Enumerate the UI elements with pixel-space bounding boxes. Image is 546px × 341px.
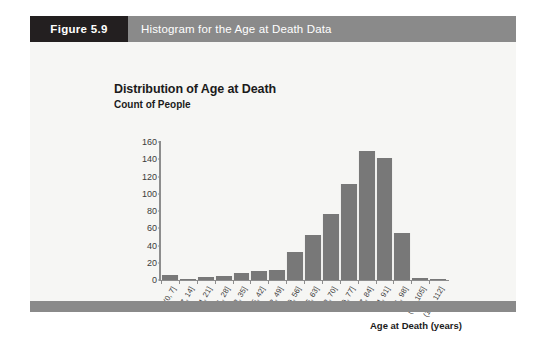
histogram-bar-slot [286,142,304,280]
y-tick-label: 40 [147,241,157,251]
histogram-bar [197,277,215,280]
histogram-bar-slot [411,142,429,280]
histogram-bar-slot [340,142,358,280]
y-axis-title: Count of People [114,99,191,110]
histogram-bar [179,279,197,280]
y-tick-label: 100 [142,189,157,199]
y-tick-label: 160 [142,137,157,147]
histogram-bar-slot [197,142,215,280]
histogram-bar [161,275,179,280]
histogram-bar [393,233,411,280]
y-tick-label: 120 [142,172,157,182]
y-tick-label: 140 [142,154,157,164]
histogram-bar-slot [233,142,251,280]
figure-footer-rule [30,301,516,312]
histogram-bar [268,270,286,280]
figure-caption-block: Histogram for the Age at Death Data [128,16,516,42]
histogram-bar [376,158,394,280]
plot-area: 020406080100120140160 [161,142,447,280]
y-tick-label: 20 [147,258,157,268]
histogram-bar [250,271,268,280]
histogram-bar [358,151,376,280]
y-tick-label: 0 [152,275,157,285]
figure-number-block: Figure 5.9 [30,16,128,42]
histogram-bar-slot [250,142,268,280]
histogram-bar [286,252,304,280]
figure-body: Distribution of Age at Death Count of Pe… [30,42,516,286]
histogram-bar-slot [304,142,322,280]
histogram-bar-slot [376,142,394,280]
x-axis-title: Age at Death (years) [370,320,462,331]
histogram-bar [322,214,340,280]
y-tick-label: 60 [147,223,157,233]
histogram-bars [161,142,447,280]
histogram-bar-slot [322,142,340,280]
histogram-bar-slot [358,142,376,280]
histogram-bar [340,184,358,280]
figure-caption-label: Histogram for the Age at Death Data [141,23,332,35]
histogram-bar [304,235,322,280]
histogram-bar-slot [429,142,447,280]
y-tick-label: 80 [147,206,157,216]
histogram-bar [233,273,251,280]
histogram-bar [411,278,429,280]
figure-header-bar: Figure 5.9 Histogram for the Age at Deat… [30,16,516,42]
histogram-bar-slot [215,142,233,280]
figure-container: Figure 5.9 Histogram for the Age at Deat… [30,16,516,312]
histogram-bar-slot [268,142,286,280]
histogram-bar [429,279,447,280]
histogram-bar [215,276,233,280]
histogram-bar-slot [393,142,411,280]
histogram-bar-slot [179,142,197,280]
figure-number-label: Figure 5.9 [50,23,107,35]
chart-title: Distribution of Age at Death [114,82,276,96]
histogram-bar-slot [161,142,179,280]
